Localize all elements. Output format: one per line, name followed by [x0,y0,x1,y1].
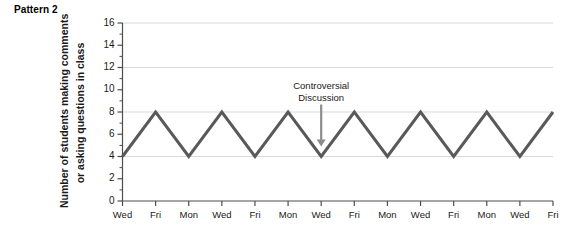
y-tick-label: 6 [109,128,115,139]
annotation-arrow-head [317,140,326,147]
y-tick-label: 0 [109,195,115,206]
chart-figure: Pattern 2 Number of students making comm… [0,0,576,235]
y-tick-label: 12 [103,61,115,72]
y-tick-label: 2 [109,172,115,183]
annotation-label-line-2: Discussion [298,92,344,103]
x-tick-label: Fri [249,209,260,220]
plot-area: 0246810121416 WedFriMonWedFriMonWedFriMo… [0,0,576,235]
x-tick-label: Mon [378,209,396,220]
y-axis-ticks: 0246810121416 [103,17,122,206]
x-tick-label: Fri [448,209,459,220]
x-tick-label: Fri [349,209,360,220]
x-tick-label: Mon [478,209,496,220]
x-tick-label: Fri [547,209,558,220]
y-tick-label: 14 [103,39,115,50]
annotation-label-line-1: Controversial [293,80,349,91]
x-tick-label: Wed [312,209,331,220]
x-tick-label: Wed [113,209,132,220]
annotation-controversial-discussion: Controversial Discussion [293,80,349,147]
y-tick-label: 8 [109,106,115,117]
x-tick-label: Wed [411,209,430,220]
x-tick-label: Wed [510,209,529,220]
x-tick-label: Fri [150,209,161,220]
y-tick-label: 10 [103,83,115,94]
data-series-line [123,112,554,157]
x-axis-ticks: WedFriMonWedFriMonWedFriMonWedFriMonWedF… [113,201,559,220]
x-tick-label: Wed [212,209,231,220]
y-tick-label: 16 [103,17,115,28]
x-tick-label: Mon [279,209,297,220]
x-tick-label: Mon [179,209,197,220]
y-tick-label: 4 [109,150,115,161]
